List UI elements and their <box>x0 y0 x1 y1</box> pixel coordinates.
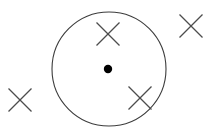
physics-field-diagram-canvas <box>0 0 213 137</box>
figure-container: Magnetic field into page with circular r… <box>0 0 213 137</box>
center-point-charge-icon <box>104 65 112 73</box>
